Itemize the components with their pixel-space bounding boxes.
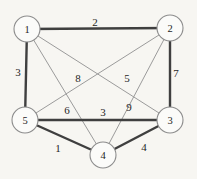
node-label-1: 1: [24, 24, 29, 35]
edge-weight-2-5: 8: [75, 72, 81, 84]
edge-1-4: [27, 29, 103, 155]
edge-weight-2-4: 9: [126, 101, 132, 113]
node-label-3: 3: [167, 115, 172, 126]
edge-weight-2-3: 7: [173, 67, 179, 79]
graph-diagram: 125348569237314: [0, 0, 197, 179]
graph-svg: 125348569237314: [0, 0, 197, 179]
edge-weight-5-3: 3: [100, 106, 106, 118]
edge-weight-1-3: 5: [124, 72, 130, 84]
node-label-4: 4: [100, 150, 106, 161]
edge-1-5: [25, 29, 27, 120]
edge-2-4: [103, 28, 170, 155]
edge-weight-1-2: 2: [92, 16, 98, 28]
node-label-2: 2: [167, 23, 172, 34]
node-label-5: 5: [22, 115, 27, 126]
edge-weight-5-4: 1: [55, 142, 61, 154]
edge-weight-4-3: 4: [141, 141, 147, 153]
edge-weight-1-4: 6: [64, 104, 70, 116]
edge-1-2: [27, 28, 170, 29]
edge-1-3: [27, 29, 170, 120]
edge-weight-1-5: 3: [15, 66, 21, 78]
